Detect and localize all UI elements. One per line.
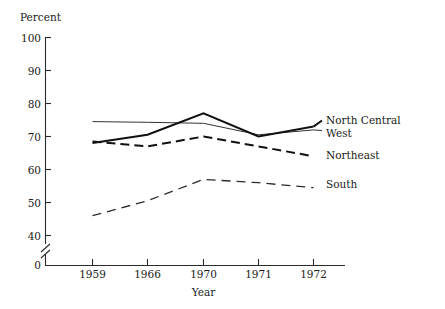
legend-swatch-north-central [314, 121, 323, 127]
x-axis-title: Year [191, 286, 216, 298]
y-tick-label-90: 90 [28, 65, 41, 77]
x-tick-label-1970: 1970 [190, 268, 217, 280]
y-tick-label-50: 50 [28, 197, 41, 209]
y-tick-group [46, 38, 52, 236]
series-line-north-central [93, 113, 314, 143]
y-axis-title: Percent [20, 11, 62, 23]
legend-label-west: West [326, 127, 353, 139]
x-tick-group [93, 259, 314, 266]
y-tick-label-100: 100 [21, 32, 41, 44]
series-line-south [93, 179, 314, 215]
legend-swatch-west [314, 130, 323, 131]
series-line-northeast [93, 137, 314, 157]
y-tick-label-70: 70 [28, 131, 41, 143]
x-tick-label-1972: 1972 [300, 268, 327, 280]
x-tick-label-1966: 1966 [134, 268, 161, 280]
y-tick-label-40: 40 [28, 230, 41, 242]
legend-label-south: South [326, 178, 357, 190]
y-tick-label-80: 80 [28, 98, 41, 110]
legend-label-north-central: North Central [326, 114, 401, 126]
y-tick-label-0: 0 [34, 259, 41, 271]
x-tick-label-1971: 1971 [245, 268, 272, 280]
y-tick-label-60: 60 [28, 164, 41, 176]
x-tick-label-1959: 1959 [79, 268, 106, 280]
line-chart: Percent 100 90 80 70 60 50 40 0 [0, 0, 445, 309]
legend-label-northeast: Northeast [326, 149, 380, 161]
